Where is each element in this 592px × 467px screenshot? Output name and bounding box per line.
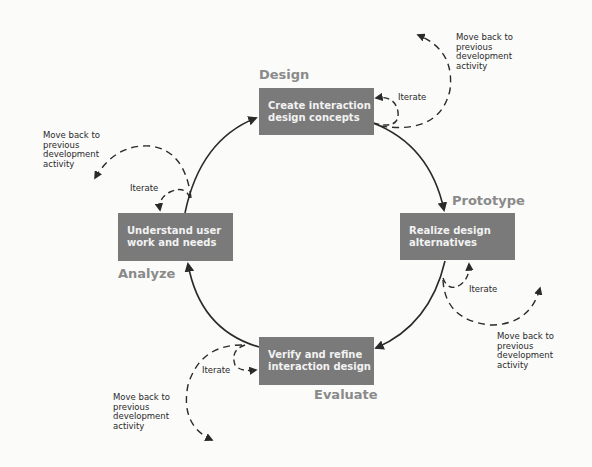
prototype-iterate-label: Iterate xyxy=(469,284,497,294)
evaluate-move-back-label: Move back to previous development activi… xyxy=(113,393,170,431)
prototype-move-back-label: Move back to previous development activi… xyxy=(497,332,554,370)
arrow-analyze-to-design xyxy=(185,118,256,213)
phase-label-design: Design xyxy=(259,67,309,82)
prototype-box-line1: Realize design xyxy=(409,225,515,237)
design-iterate-label: Iterate xyxy=(398,92,426,102)
stage-box-prototype: Realize design alternatives xyxy=(400,213,515,260)
phase-label-analyze: Analyze xyxy=(118,266,175,281)
analyze-iterate-loop xyxy=(160,190,190,210)
phase-label-prototype: Prototype xyxy=(452,193,525,208)
stage-box-analyze: Understand user work and needs xyxy=(118,213,233,261)
analyze-box-line2: work and needs xyxy=(127,237,233,249)
analyze-move-back-label: Move back to previous development activi… xyxy=(43,131,100,169)
phase-label-evaluate: Evaluate xyxy=(314,387,378,402)
evaluate-iterate-loop xyxy=(234,345,256,370)
design-iterate-loop xyxy=(373,98,398,125)
analyze-box-line1: Understand user xyxy=(127,225,233,237)
design-move-back-path xyxy=(380,35,451,128)
prototype-iterate-loop xyxy=(443,264,469,287)
analyze-iterate-label: Iterate xyxy=(130,183,158,193)
stage-box-design: Create interaction design concepts xyxy=(259,88,374,135)
evaluate-box-line1: Verify and refine xyxy=(268,349,374,361)
arrow-evaluate-to-analyze xyxy=(188,264,259,347)
stage-box-evaluate: Verify and refine interaction design xyxy=(259,337,374,385)
evaluate-iterate-label: Iterate xyxy=(202,365,230,375)
arrow-prototype-to-evaluate xyxy=(376,261,445,348)
iterative-design-cycle-diagram: Design Create interaction design concept… xyxy=(0,0,592,467)
arrow-design-to-prototype xyxy=(373,123,444,210)
design-box-line2: design concepts xyxy=(268,112,374,124)
evaluate-box-line2: interaction design xyxy=(268,361,374,373)
prototype-box-line2: alternatives xyxy=(409,237,515,249)
evaluate-move-back-path xyxy=(186,345,242,440)
design-box-line1: Create interaction xyxy=(268,100,374,112)
design-move-back-label: Move back to previous development activi… xyxy=(456,33,513,71)
